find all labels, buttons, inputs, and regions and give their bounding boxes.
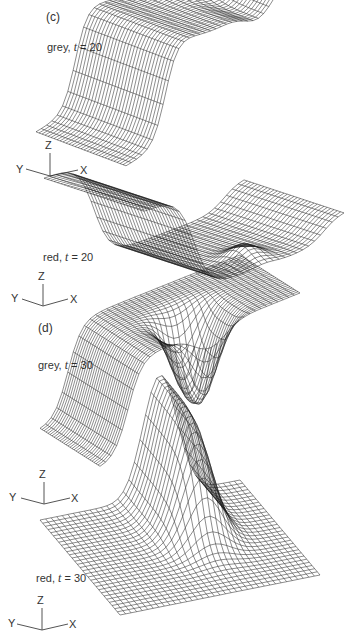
surface-grey-t20 [36, 0, 306, 166]
surface-red-t20 [44, 173, 344, 279]
surface-grey-t30 [40, 255, 300, 466]
wireframe-surfaces [0, 0, 351, 644]
surface-red-t30 [40, 376, 320, 615]
